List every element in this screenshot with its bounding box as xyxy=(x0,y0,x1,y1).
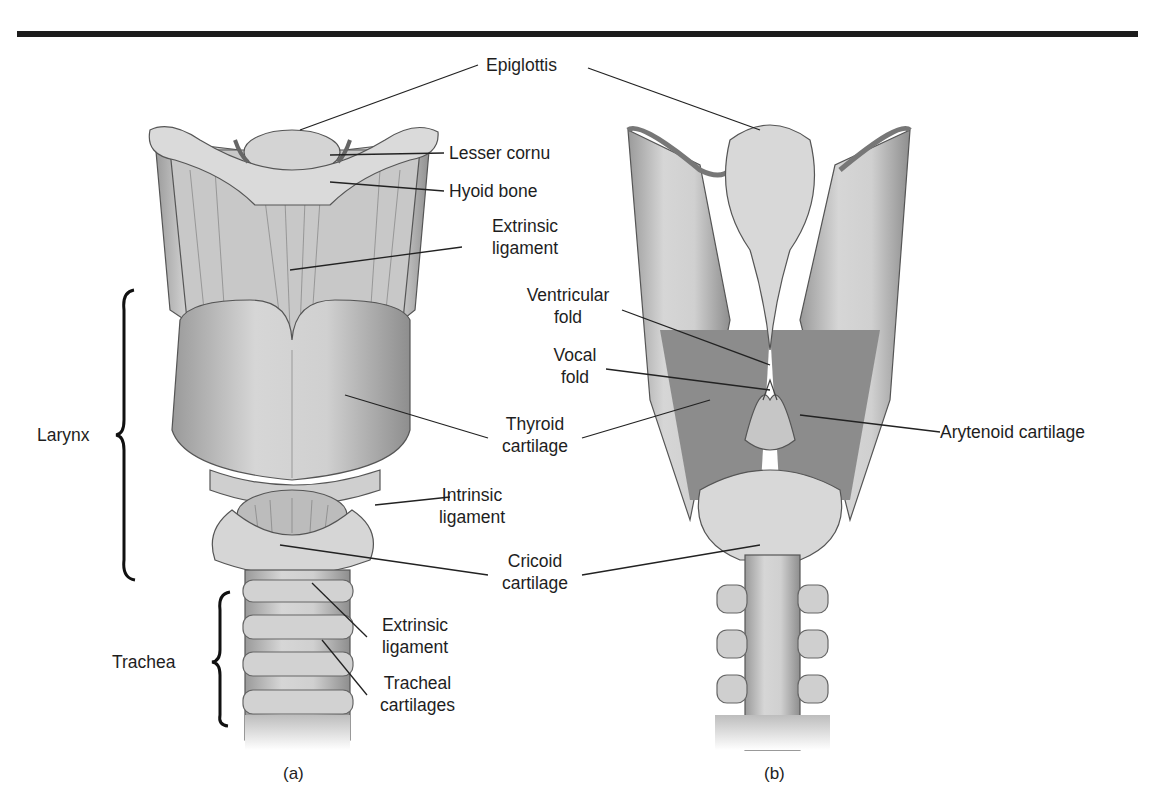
label-line-2: ligament xyxy=(470,237,580,259)
label-hyoid-bone: Hyoid bone xyxy=(449,180,538,202)
larynx-illustration xyxy=(0,0,1163,805)
label-tracheal-cartilages: Tracheal cartilages xyxy=(370,672,465,716)
label-line-2: ligament xyxy=(370,636,460,658)
label-line-1: Intrinsic xyxy=(427,484,517,506)
label-line-1: Thyroid xyxy=(490,413,580,435)
label-line-1: Ventricular xyxy=(518,284,618,306)
label-epiglottis: Epiglottis xyxy=(486,54,557,76)
caption-panel-a: (a) xyxy=(283,764,304,784)
label-thyroid-cartilage: Thyroid cartilage xyxy=(490,413,580,457)
label-vocal-fold: Vocal fold xyxy=(545,344,605,388)
label-larynx: Larynx xyxy=(37,424,90,446)
label-line-2: cartilage xyxy=(490,572,580,594)
posterior-view xyxy=(628,125,910,750)
label-line-1: Tracheal xyxy=(370,672,465,694)
label-intrinsic-ligament: Intrinsic ligament xyxy=(427,484,517,528)
label-line-2: fold xyxy=(518,306,618,328)
label-lesser-cornu: Lesser cornu xyxy=(449,142,550,164)
label-line-2: ligament xyxy=(427,506,517,528)
label-line-1: Extrinsic xyxy=(470,215,580,237)
label-line-2: cartilage xyxy=(490,435,580,457)
label-cricoid-cartilage: Cricoid cartilage xyxy=(490,550,580,594)
label-line-1: Extrinsic xyxy=(370,614,460,636)
label-extrinsic-ligament-upper: Extrinsic ligament xyxy=(470,215,580,259)
label-trachea: Trachea xyxy=(112,651,176,673)
label-extrinsic-ligament-lower: Extrinsic ligament xyxy=(370,614,460,658)
label-line-2: cartilages xyxy=(370,694,465,716)
caption-panel-b: (b) xyxy=(764,764,785,784)
label-line-1: Vocal xyxy=(545,344,605,366)
label-arytenoid-cartilage: Arytenoid cartilage xyxy=(940,421,1085,443)
label-line-1: Cricoid xyxy=(490,550,580,572)
label-line-2: fold xyxy=(545,366,605,388)
label-ventricular-fold: Ventricular fold xyxy=(518,284,618,328)
